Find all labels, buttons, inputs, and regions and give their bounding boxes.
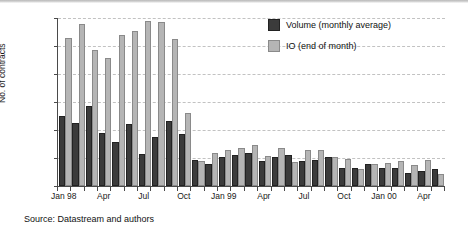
x-axis-tick-mark	[431, 187, 432, 191]
bar-group	[179, 18, 192, 186]
x-axis-tick-mark	[204, 187, 205, 191]
x-axis-tick-label: Jul	[138, 191, 149, 201]
chart-legend: Volume (monthly average) IO (end of mont…	[268, 19, 391, 52]
x-axis-tick-mark	[324, 187, 325, 191]
bar-io	[292, 162, 298, 186]
bar-io	[265, 156, 271, 186]
bar-group	[112, 18, 125, 186]
bar-group	[59, 18, 72, 186]
bar-io	[345, 159, 351, 186]
chart-figure: No. of contracts 02000040000600008000010…	[0, 0, 468, 237]
bar-io	[318, 150, 324, 186]
x-axis-tick-mark	[124, 187, 125, 191]
bar-io	[145, 21, 151, 186]
bar-io	[305, 150, 311, 186]
bar-group	[126, 18, 139, 186]
bar-group	[405, 18, 418, 186]
x-axis-tick-mark	[150, 187, 151, 191]
bar-io	[425, 160, 431, 186]
bar-io	[105, 58, 111, 186]
x-axis: Jan 98AprJulOctJan 99AprJulOctJan 00Apr	[57, 187, 445, 209]
bar-group	[86, 18, 99, 186]
bar-io	[79, 24, 85, 186]
legend-swatch-volume-icon	[268, 19, 280, 31]
x-axis-tick-mark	[110, 187, 111, 191]
bar-group	[152, 18, 165, 186]
bar-io	[65, 38, 71, 186]
x-axis-tick-mark	[284, 187, 285, 191]
x-axis-tick-mark	[271, 187, 272, 191]
bar-io	[198, 161, 204, 186]
x-axis-tick-mark	[164, 187, 165, 191]
bar-io	[411, 165, 417, 186]
page-top-rule	[0, 0, 468, 3]
x-axis-tick-label: Apr	[97, 191, 110, 201]
bar-group	[205, 18, 218, 186]
legend-item-io: IO (end of month)	[268, 40, 391, 52]
x-axis-tick-mark	[364, 187, 365, 191]
x-axis-tick-mark	[351, 187, 352, 191]
bar-io	[225, 150, 231, 186]
bar-io	[92, 50, 98, 187]
bar-io	[212, 153, 218, 186]
bar-group	[232, 18, 245, 186]
bar-io	[238, 148, 244, 186]
y-axis-label: No. of contracts	[0, 43, 7, 103]
x-axis-tick-label: Jan 99	[211, 191, 237, 201]
bar-io	[172, 39, 178, 186]
bar-io	[158, 22, 164, 186]
bar-io	[398, 161, 404, 186]
bar-group	[418, 18, 431, 186]
bar-group	[166, 18, 179, 186]
x-axis-tick-mark	[190, 187, 191, 191]
bar-group	[432, 18, 445, 186]
bar-io	[132, 31, 138, 186]
bar-group	[99, 18, 112, 186]
x-axis-tick-label: Jul	[298, 191, 309, 201]
x-axis-tick-label: Apr	[257, 191, 270, 201]
bar-group	[72, 18, 85, 186]
bar-io	[371, 164, 377, 186]
x-axis-tick-label: Jan 98	[51, 191, 77, 201]
legend-swatch-io-icon	[268, 40, 280, 52]
x-axis-tick-mark	[84, 187, 85, 191]
x-axis-tick-label: Oct	[337, 191, 350, 201]
bar-io	[278, 148, 284, 186]
bar-group	[392, 18, 405, 186]
x-axis-tick-mark	[244, 187, 245, 191]
legend-item-volume: Volume (monthly average)	[268, 19, 391, 31]
bar-io	[332, 157, 338, 186]
bar-group	[219, 18, 232, 186]
legend-label-io: IO (end of month)	[286, 41, 357, 51]
x-axis-tick-label: Jan 00	[371, 191, 397, 201]
x-axis-tick-label: Oct	[177, 191, 190, 201]
legend-label-volume: Volume (monthly average)	[286, 20, 391, 30]
bar-io	[252, 145, 258, 186]
x-axis-tick-mark	[444, 187, 445, 191]
x-axis-tick-mark	[404, 187, 405, 191]
bar-group	[139, 18, 152, 186]
bar-group	[192, 18, 205, 186]
bar-io	[185, 113, 191, 186]
bar-io	[438, 174, 444, 186]
bar-io	[358, 169, 364, 186]
source-note: Source: Datastream and authors	[24, 214, 154, 224]
bar-io	[119, 35, 125, 186]
bar-group	[245, 18, 258, 186]
bar-io	[385, 163, 391, 186]
x-axis-tick-label: Apr	[417, 191, 430, 201]
x-axis-tick-mark	[311, 187, 312, 191]
